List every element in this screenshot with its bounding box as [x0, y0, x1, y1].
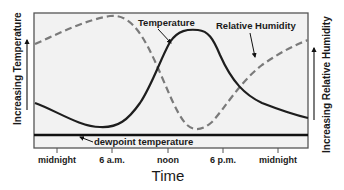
tick-label-midnight-start: midnight	[38, 155, 76, 165]
relative-humidity-annotation: Relative Humidity	[216, 20, 296, 31]
dewpoint-annotation: dewpoint temperature	[94, 136, 193, 147]
x-ticks	[57, 148, 278, 153]
tick-label-noon: noon	[157, 155, 179, 165]
tick-label-6pm: 6 p.m.	[210, 155, 236, 165]
weather-chart: midnight 6 a.m. noon 6 p.m. midnight Tim…	[0, 0, 344, 190]
tick-label-6am: 6 a.m.	[99, 155, 125, 165]
y-axis-right-title: Increasing Relative Humidity	[321, 16, 332, 153]
tick-label-midnight-end: midnight	[259, 155, 297, 165]
x-axis-title: Time	[152, 167, 185, 184]
y-axis-left-title: Increasing Temperature	[12, 12, 23, 125]
temperature-annotation: Temperature	[138, 17, 195, 28]
plot-area	[34, 13, 308, 148]
